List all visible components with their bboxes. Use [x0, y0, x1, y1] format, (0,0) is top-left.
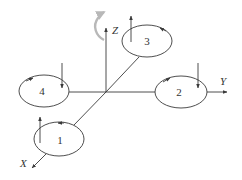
quadrotor-diagram: Z Y X 3 4 2 1: [0, 0, 242, 180]
arm-rotor-1: [74, 92, 106, 125]
arm-rotor-3: [106, 57, 139, 92]
rotor-3-label: 3: [144, 35, 150, 47]
rotor-4: 4: [19, 63, 69, 107]
x-axis-arrow: [32, 154, 46, 168]
rotor-3: 3: [122, 16, 172, 57]
z-axis-label: Z: [112, 24, 119, 36]
rotor-2: 2: [155, 63, 207, 108]
rotor-2-label: 2: [176, 86, 182, 98]
y-axis-label: Y: [220, 75, 228, 87]
frame-arms: [69, 57, 155, 125]
yaw-rotation-icon: [95, 12, 104, 40]
x-axis-label: X: [19, 157, 28, 169]
rotor-1-label: 1: [57, 134, 63, 146]
rotor-4-label: 4: [39, 85, 45, 97]
